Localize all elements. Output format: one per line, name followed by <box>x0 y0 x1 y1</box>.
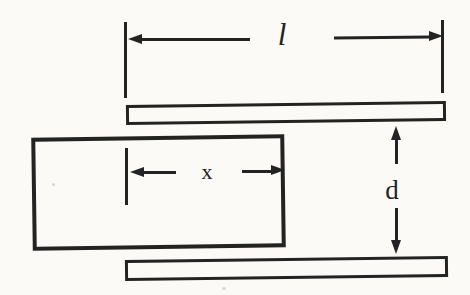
top-plate <box>126 101 446 125</box>
overlap-arrow-right-shaft <box>242 170 273 173</box>
length-arrow-left-shaft <box>140 38 250 41</box>
bottom-plate <box>125 256 448 281</box>
overlap-arrow-right-icon <box>271 165 285 175</box>
gap-label: d <box>379 177 405 204</box>
capacitor-dielectric-diagram: l x d <box>0 0 470 295</box>
length-label: l <box>268 19 296 50</box>
overlap-dimension-tick <box>125 148 128 205</box>
length-arrow-right-icon <box>429 31 443 41</box>
length-dimension-left-tick <box>124 22 127 98</box>
length-arrow-right-shaft <box>334 35 431 39</box>
gap-arrow-down-shaft <box>395 208 398 241</box>
overlap-arrow-left-shaft <box>142 171 176 174</box>
gap-arrow-up-icon <box>391 126 401 140</box>
scan-speck <box>52 183 55 186</box>
overlap-label: x <box>194 161 220 183</box>
gap-arrow-up-shaft <box>395 139 398 164</box>
gap-arrow-down-icon <box>391 240 401 254</box>
dielectric-slab <box>31 134 286 251</box>
scan-speck <box>222 287 226 290</box>
